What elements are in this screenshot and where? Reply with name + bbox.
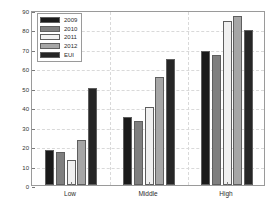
legend-swatch-2012 bbox=[40, 43, 60, 49]
bar-low-2010 bbox=[56, 152, 65, 185]
y-axis-tick-mark bbox=[32, 129, 35, 130]
y-axis-tick-label: 0 bbox=[26, 184, 29, 190]
y-axis-tick-mark bbox=[32, 51, 35, 52]
bar-middle-2009 bbox=[123, 117, 132, 185]
y-axis-tick-label: 50 bbox=[22, 87, 29, 93]
x-axis-tick-mark bbox=[71, 182, 72, 185]
bar-high-2009 bbox=[201, 51, 210, 185]
legend-swatch-eui bbox=[40, 52, 60, 58]
x-axis-tick-mark bbox=[227, 182, 228, 185]
legend-swatch-2010 bbox=[40, 26, 60, 32]
chart-legend: 2009201020112012EUI bbox=[37, 13, 82, 62]
legend-item-eui: EUI bbox=[40, 50, 77, 59]
y-axis-tick-label: 20 bbox=[22, 145, 29, 151]
y-axis-tick-mark bbox=[32, 148, 35, 149]
y-axis-tick-mark bbox=[32, 109, 35, 110]
y-axis-tick-label: 80 bbox=[22, 28, 29, 34]
legend-label: 2011 bbox=[64, 34, 77, 40]
x-axis-tick-label: High bbox=[219, 190, 232, 197]
y-axis-tick-mark bbox=[32, 187, 35, 188]
legend-item-2009: 2009 bbox=[40, 16, 77, 25]
legend-item-2010: 2010 bbox=[40, 25, 77, 34]
y-axis-tick-label: 10 bbox=[22, 165, 29, 171]
y-axis-tick-label: 90 bbox=[22, 9, 29, 15]
bar-high-2010 bbox=[212, 55, 221, 185]
bar-middle-eui bbox=[166, 59, 175, 185]
bar-middle-2011 bbox=[145, 107, 154, 185]
y-axis-tick-mark bbox=[32, 168, 35, 169]
y-axis-tick-mark bbox=[32, 31, 35, 32]
y-axis-tick-label: 40 bbox=[22, 106, 29, 112]
legend-item-2011: 2011 bbox=[40, 33, 77, 42]
legend-swatch-2009 bbox=[40, 17, 60, 23]
y-axis-tick-mark bbox=[32, 90, 35, 91]
legend-swatch-2011 bbox=[40, 34, 60, 40]
y-axis-tick-label: 70 bbox=[22, 48, 29, 54]
bar-high-2012 bbox=[233, 16, 242, 185]
y-axis-tick-label: 60 bbox=[22, 67, 29, 73]
y-axis-tick-mark bbox=[32, 70, 35, 71]
y-axis-tick-label: 30 bbox=[22, 126, 29, 132]
vertical-gridline bbox=[188, 12, 189, 185]
bar-middle-2010 bbox=[134, 121, 143, 185]
x-axis-tick-label: Middle bbox=[138, 190, 157, 197]
bar-chart-figure: Energy Consumption unit area 01020304050… bbox=[0, 0, 273, 208]
legend-label: 2010 bbox=[64, 26, 77, 32]
bar-high-eui bbox=[244, 30, 253, 185]
legend-label: EUI bbox=[64, 52, 74, 58]
legend-item-2012: 2012 bbox=[40, 42, 77, 51]
bar-low-2012 bbox=[77, 140, 86, 185]
x-axis-tick-label: Low bbox=[64, 190, 76, 197]
x-axis-tick-mark bbox=[149, 182, 150, 185]
legend-label: 2012 bbox=[64, 43, 77, 49]
legend-label: 2009 bbox=[64, 17, 77, 23]
y-axis-tick-mark bbox=[32, 12, 35, 13]
bar-middle-2012 bbox=[155, 77, 164, 185]
bar-high-2011 bbox=[223, 21, 232, 185]
vertical-gridline bbox=[110, 12, 111, 185]
bar-low-eui bbox=[88, 88, 97, 185]
bar-low-2009 bbox=[45, 150, 54, 185]
